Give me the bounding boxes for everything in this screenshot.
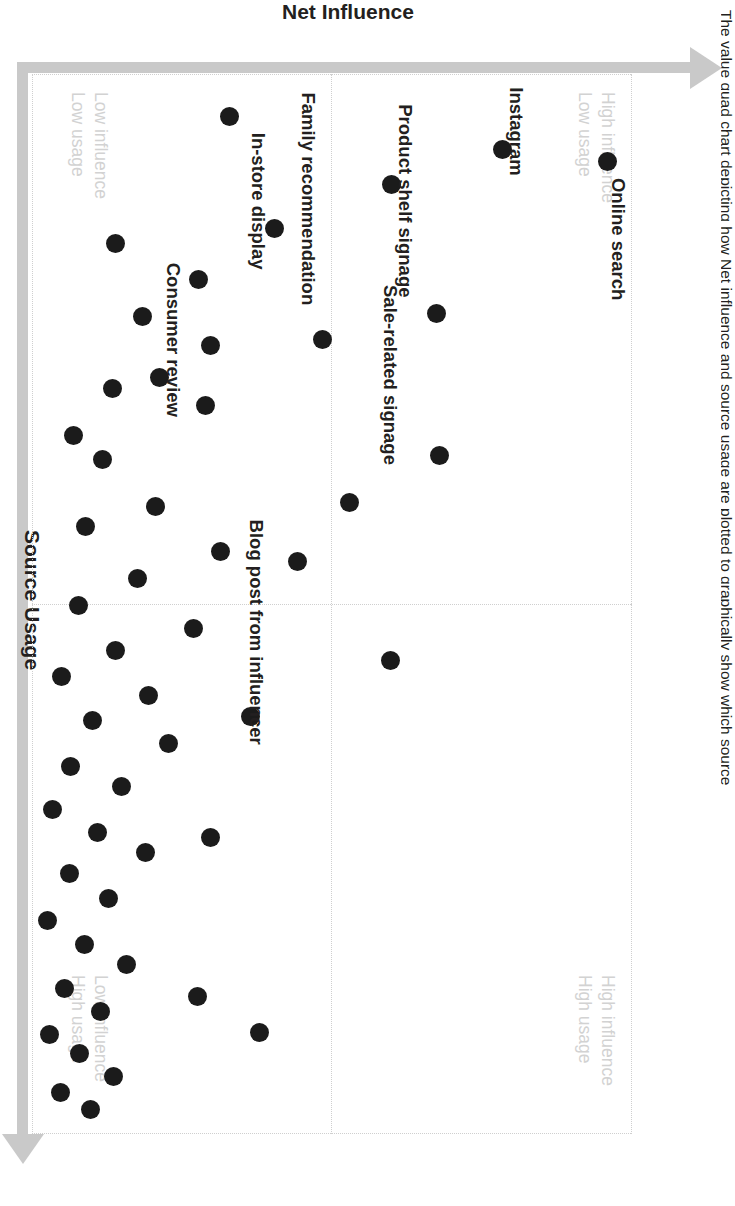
data-point — [61, 757, 80, 776]
x-axis-arrow-icon — [2, 1134, 44, 1164]
data-point — [211, 542, 230, 561]
gridline-vertical-mid — [32, 604, 632, 605]
data-point — [136, 843, 155, 862]
y-axis-title: Net Influence — [282, 0, 414, 24]
data-point — [64, 426, 83, 445]
y-axis-arrow-icon — [690, 47, 722, 89]
data-point — [133, 307, 152, 326]
data-point-label: Sale-related signage — [379, 285, 401, 465]
plot-area — [32, 74, 632, 1134]
data-point — [201, 828, 220, 847]
data-point — [146, 497, 165, 516]
data-point-label: Blog post from influencer — [245, 520, 267, 745]
data-point-label: Online search — [607, 178, 629, 300]
data-point — [60, 864, 79, 883]
data-point — [381, 651, 400, 670]
quadrant-label-line1: Low influence — [89, 975, 112, 1082]
gridline-horizontal-mid — [331, 74, 332, 1134]
quadrant-label-line2: Low usage — [66, 92, 89, 199]
quadrant-label-line2: Low usage — [573, 92, 596, 203]
data-point — [288, 552, 307, 571]
data-point — [99, 889, 118, 908]
figure-caption: The value quad chart depicting how Net i… — [721, 10, 735, 1200]
data-point-label: Instagram — [505, 87, 527, 175]
data-point-label: In-store display — [247, 133, 269, 270]
data-point — [91, 1002, 110, 1021]
data-point — [106, 641, 125, 660]
data-point — [52, 667, 71, 686]
data-point — [75, 935, 94, 954]
data-point — [201, 336, 220, 355]
data-point — [139, 686, 158, 705]
quadrant-label-line1: Low influence — [89, 92, 112, 199]
data-point — [314, 330, 333, 349]
data-point — [188, 987, 207, 1006]
y-axis-bar — [17, 62, 690, 73]
data-point — [69, 596, 88, 615]
data-point — [117, 955, 136, 974]
quadrant-label-line1: High influence — [596, 975, 619, 1086]
data-point — [112, 777, 131, 796]
data-point-label: Product shelf signage — [394, 104, 416, 297]
data-point-label: Family recommendation — [297, 92, 319, 305]
data-point — [220, 107, 239, 126]
data-point — [427, 304, 446, 323]
quadrant-label-high-influence-high-usage: High influence High usage — [573, 975, 619, 1086]
quadrant-label-line2: High usage — [573, 975, 596, 1086]
quadrant-label-low-influence-low-usage: Low influence Low usage — [66, 92, 112, 199]
data-point — [93, 450, 112, 469]
data-point-label: Consumer review — [162, 263, 184, 417]
